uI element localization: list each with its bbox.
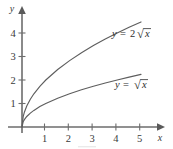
lower-curve-radical-icon: √ [134,78,141,92]
x-axis-label: x [157,132,163,143]
upper-curve-label-coefficient: 2 [130,28,135,39]
plot-canvas: 1 2 3 4 5 x 1 2 3 4 y y = 2 [0,0,173,149]
y-axis: 1 2 3 4 y [9,3,26,133]
x-tick-label-1: 1 [42,133,47,144]
x-axis: 1 2 3 4 5 x [8,123,165,143]
upper-curve-radical-icon: √ [137,27,144,41]
lower-curve-label-equals: = [123,79,129,90]
y-axis-label: y [9,3,15,14]
lower-curve-label-lhs: y [114,79,120,90]
x-tick-label-5: 5 [137,133,142,144]
lower-curve-label: y = √ x [114,78,148,92]
upper-curve-label-equals: = [120,28,126,39]
y-tick-label-3: 3 [10,51,15,62]
scan-artifact [78,146,96,147]
y-tick-label-1: 1 [10,98,15,109]
x-tick-label-4: 4 [113,133,119,144]
square-root-functions-figure: 1 2 3 4 5 x 1 2 3 4 y y = 2 [0,0,173,149]
lower-curve-radicand: x [141,79,147,90]
x-axis-arrow-icon [157,123,165,131]
y-axis-arrow-icon [18,6,26,14]
y-tick-label-4: 4 [10,28,16,39]
x-tick-label-2: 2 [66,133,71,144]
upper-curve-label-lhs: y [111,28,117,39]
y-tick-label-2: 2 [10,75,15,86]
upper-curve-radicand: x [144,28,150,39]
x-tick-label-3: 3 [89,133,94,144]
